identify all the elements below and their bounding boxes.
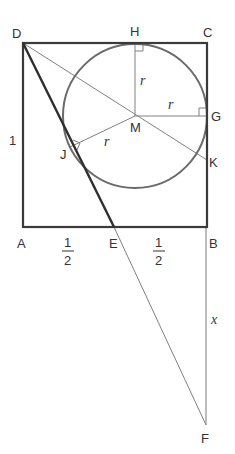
label-D: D [12, 26, 21, 41]
label-r-MJ: r [104, 134, 110, 149]
fraction-EB-denominator: 2 [155, 253, 162, 268]
fraction-AE-numerator: 1 [64, 235, 71, 250]
line-DE [23, 43, 114, 227]
label-r-MG: r [168, 97, 174, 112]
label-A: A [17, 236, 26, 251]
label-G: G [211, 109, 221, 124]
label-H: H [130, 24, 139, 39]
label-K: K [209, 155, 218, 170]
label-J: J [60, 147, 67, 162]
square-ABCD [23, 43, 207, 227]
fraction-EB: 1 2 [153, 235, 165, 268]
label-B: B [209, 236, 218, 251]
fraction-AE-denominator: 2 [64, 253, 71, 268]
fraction-EB-numerator: 1 [155, 235, 162, 250]
label-side-AD: 1 [9, 133, 16, 148]
label-M: M [130, 120, 141, 135]
label-r-MH: r [140, 73, 146, 88]
label-x-BF: x [210, 312, 218, 327]
fraction-AE: 1 2 [62, 235, 74, 268]
label-F: F [201, 431, 209, 446]
label-C: C [203, 25, 212, 40]
label-E: E [109, 236, 118, 251]
geometry-diagram: D H C G M J K A E B F 1 r r r x 1 2 1 2 [0, 0, 235, 454]
